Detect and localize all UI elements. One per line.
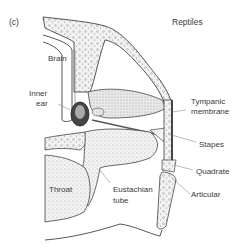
- label-stapes: Stapes: [199, 140, 224, 149]
- label-tympanic-line1: Tympanic: [191, 97, 225, 106]
- label-inner-ear-line1: Inner: [29, 89, 47, 98]
- label-articular: Articular: [191, 190, 220, 199]
- label-eustachian-line1: Eustachian: [113, 185, 153, 194]
- reptile-ear-diagram: (c) Reptiles Brain Inner ear Tympanic me…: [0, 0, 245, 252]
- label-throat: Throat: [49, 185, 72, 194]
- label-quadrate: Quadrate: [196, 167, 229, 176]
- label-eustachian-line2: tube: [113, 196, 129, 205]
- label-brain: Brain: [48, 54, 67, 63]
- label-inner-ear-line2: ear: [36, 99, 48, 108]
- panel-label: (c): [9, 18, 19, 27]
- diagram-title: Reptiles: [172, 18, 203, 27]
- label-tympanic-line2: membrane: [191, 107, 229, 116]
- anatomy-drawing: [0, 0, 245, 252]
